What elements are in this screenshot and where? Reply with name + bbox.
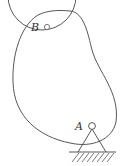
point-a-pivot	[89, 123, 96, 130]
cam-diagram: B A	[0, 0, 122, 166]
label-b: B	[30, 21, 39, 34]
ground-hatching	[72, 153, 114, 162]
large-circle	[8, 0, 76, 30]
point-b-circle	[44, 24, 49, 29]
label-a: A	[74, 120, 83, 133]
cam-outline	[13, 10, 117, 144]
